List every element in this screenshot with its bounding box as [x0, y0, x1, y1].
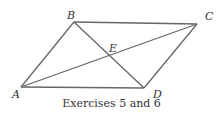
segment-da [21, 87, 144, 88]
label-c: C [205, 10, 214, 23]
label-e: E [108, 42, 117, 55]
segment-bc [74, 22, 197, 24]
diagonal-bd [74, 22, 144, 88]
figure-caption: Exercises 5 and 6 [0, 97, 223, 110]
label-b: B [66, 9, 75, 22]
